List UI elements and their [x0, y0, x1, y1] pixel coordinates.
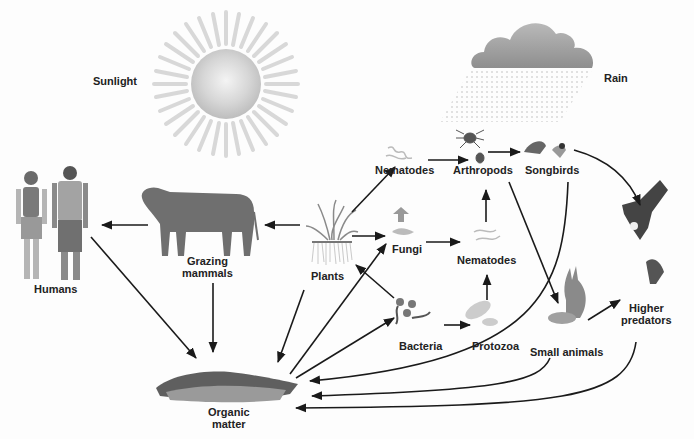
arrow-arthropods-to-small-animals — [509, 182, 558, 303]
label-bacteria: Bacteria — [399, 340, 442, 352]
label-protozoa: Protozoa — [472, 340, 519, 352]
small-animals-icon — [548, 266, 586, 324]
food-web-diagram: Sunlight Rain Humans Grazing mammals Pla… — [0, 0, 694, 439]
fungi-icon — [392, 207, 414, 235]
arrow-small-animals-to-predators — [588, 300, 620, 320]
songbirds-icon — [524, 141, 566, 158]
label-higher-predators: Higher predators — [621, 302, 672, 326]
arrow-organic-to-fungi — [290, 244, 386, 374]
organic-matter-icon — [156, 372, 298, 403]
label-plants: Plants — [311, 270, 344, 282]
label-small-animals: Small animals — [530, 346, 603, 358]
label-grazing-mammals: Grazing mammals — [182, 255, 233, 279]
nematodes-icon — [386, 147, 412, 159]
label-arthropods: Arthropods — [453, 164, 513, 176]
arrow-organic-to-bacteria — [296, 318, 394, 378]
label-songbirds: Songbirds — [525, 164, 579, 176]
arthropods-icon — [456, 130, 484, 163]
label-humans: Humans — [34, 283, 77, 295]
sun-icon — [154, 12, 298, 156]
label-organic-matter: Organic matter — [208, 406, 250, 430]
food-web-arrows — [91, 150, 640, 408]
arrow-plants-to-organic — [278, 290, 304, 362]
arrow-bacteria-to-plants — [356, 265, 394, 298]
plants-icon — [306, 200, 358, 265]
arrow-songbirds-to-predators — [574, 150, 640, 205]
label-sunlight: Sunlight — [93, 75, 137, 87]
label-nematodes-top: Nematodes — [375, 164, 434, 176]
rain-cloud-icon — [440, 23, 593, 122]
higher-predators-icon — [622, 180, 668, 284]
label-rain: Rain — [604, 72, 628, 84]
bacteria-icon — [396, 298, 430, 324]
nematodes-mid-icon — [474, 230, 500, 240]
illustration-layer — [0, 0, 694, 439]
humans-icon — [16, 166, 88, 280]
label-nematodes-mid: Nematodes — [457, 254, 516, 266]
label-fungi: Fungi — [392, 243, 422, 255]
grazing-mammal-icon — [142, 187, 258, 256]
protozoa-icon — [462, 297, 498, 326]
